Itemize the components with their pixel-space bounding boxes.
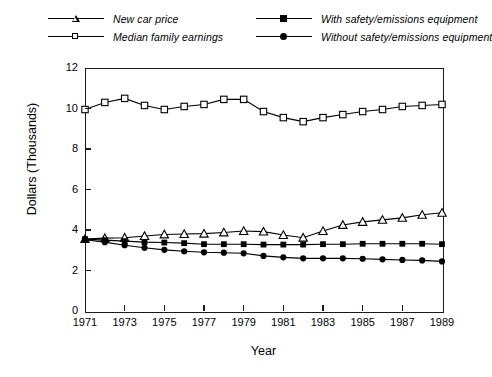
marker-square-open-icon xyxy=(439,101,445,107)
marker-square-filled-icon xyxy=(280,242,286,248)
x-tick-mark xyxy=(362,305,363,311)
y-tick-label: 12 xyxy=(56,62,78,73)
legend-label-with-safety-emissions-equipment: With safety/emissions equipment xyxy=(312,13,478,25)
x-tick-label: 1989 xyxy=(419,316,465,329)
x-axis-tick-labels: 1971197319751977197919811983198519871989 xyxy=(0,316,475,332)
marker-square-open-icon xyxy=(260,108,266,114)
x-tick-mark xyxy=(243,305,244,311)
marker-square-filled-icon xyxy=(419,241,425,247)
marker-square-open-icon xyxy=(181,103,187,109)
marker-circle-filled-icon xyxy=(360,256,366,262)
marker-circle-filled-icon xyxy=(399,257,405,263)
marker-square-filled-icon xyxy=(399,241,405,247)
marker-circle-filled-icon xyxy=(320,255,326,261)
x-tick-mark xyxy=(322,305,323,311)
marker-square-filled-icon xyxy=(181,240,187,246)
square-filled-icon xyxy=(280,15,287,22)
marker-circle-filled-icon xyxy=(379,256,385,262)
marker-circle-filled-icon xyxy=(340,255,346,261)
marker-circle-filled-icon xyxy=(122,242,128,248)
marker-square-filled-icon xyxy=(360,241,366,247)
series-median-family-earnings xyxy=(82,95,445,125)
marker-circle-filled-icon xyxy=(260,253,266,259)
marker-triangle-open-icon xyxy=(438,209,446,217)
y-tick-label: 6 xyxy=(56,184,78,195)
marker-square-open-icon xyxy=(399,103,405,109)
legend-label-without-safety-emissions-equipment: Without safety/emissions equipment xyxy=(312,31,492,43)
marker-square-filled-icon xyxy=(142,239,148,245)
marker-square-filled-icon xyxy=(161,240,167,246)
y-axis-title: Dollars (Thousands) xyxy=(25,79,39,239)
y-tick-label: 10 xyxy=(56,103,78,114)
series-without-safety-emissions-equipment xyxy=(82,237,445,265)
y-tick-mark xyxy=(85,189,91,190)
marker-square-open-icon xyxy=(359,108,365,114)
marker-square-filled-icon xyxy=(201,241,207,247)
x-tick-mark xyxy=(402,305,403,311)
legend-entry-without-safety-emissions-equipment: Without safety/emissions equipment xyxy=(256,28,492,46)
legend-label-new-car-price: New car price xyxy=(104,13,178,25)
marker-square-open-icon xyxy=(102,99,108,105)
marker-square-filled-icon xyxy=(300,242,306,248)
marker-circle-filled-icon xyxy=(201,249,207,255)
x-axis-title: Year xyxy=(85,344,442,358)
plot-series-layer xyxy=(85,68,442,311)
marker-square-open-icon xyxy=(141,102,147,108)
legend-swatch-with-safety-emissions-equipment xyxy=(256,12,312,26)
marker-square-open-icon xyxy=(320,114,326,120)
marker-square-open-icon xyxy=(340,111,346,117)
marker-circle-filled-icon xyxy=(280,254,286,260)
series-new-car-price xyxy=(81,209,446,243)
y-tick-mark xyxy=(85,108,91,109)
marker-square-open-icon xyxy=(280,114,286,120)
y-tick-label: 4 xyxy=(56,224,78,235)
marker-circle-filled-icon xyxy=(419,257,425,263)
y-tick-label: 2 xyxy=(56,265,78,276)
x-tick-mark xyxy=(203,305,204,311)
marker-circle-filled-icon xyxy=(439,258,445,264)
x-tick-mark xyxy=(164,305,165,311)
legend-swatch-without-safety-emissions-equipment xyxy=(256,30,312,44)
marker-circle-filled-icon xyxy=(300,255,306,261)
legend-entry-with-safety-emissions-equipment: With safety/emissions equipment xyxy=(256,10,478,28)
y-tick-mark xyxy=(85,229,91,230)
marker-square-open-icon xyxy=(121,95,127,101)
marker-square-open-icon xyxy=(300,118,306,124)
chart-legend: New car price Median family earnings Wit… xyxy=(48,10,468,52)
marker-square-open-icon xyxy=(379,106,385,112)
marker-square-open-icon xyxy=(161,106,167,112)
marker-square-filled-icon xyxy=(241,241,247,247)
marker-square-filled-icon xyxy=(221,241,227,247)
circle-filled-icon xyxy=(280,33,287,40)
marker-square-open-icon xyxy=(221,96,227,102)
marker-square-filled-icon xyxy=(261,242,267,248)
legend-label-median-family-earnings: Median family earnings xyxy=(104,31,223,43)
marker-circle-filled-icon xyxy=(221,250,227,256)
x-tick-mark xyxy=(283,305,284,311)
marker-square-open-icon xyxy=(240,96,246,102)
marker-circle-filled-icon xyxy=(181,248,187,254)
marker-square-open-icon xyxy=(419,102,425,108)
y-tick-mark xyxy=(85,148,91,149)
marker-square-open-icon xyxy=(201,101,207,107)
y-tick-label: 8 xyxy=(56,143,78,154)
marker-circle-filled-icon xyxy=(141,245,147,251)
marker-circle-filled-icon xyxy=(82,237,88,243)
marker-square-filled-icon xyxy=(320,241,326,247)
y-tick-label: 0 xyxy=(56,305,78,316)
marker-square-filled-icon xyxy=(439,241,445,247)
marker-square-filled-icon xyxy=(380,241,386,247)
marker-circle-filled-icon xyxy=(161,247,167,253)
series-with-safety-emissions-equipment xyxy=(82,236,445,247)
y-tick-mark xyxy=(85,270,91,271)
marker-circle-filled-icon xyxy=(102,239,108,245)
marker-square-filled-icon xyxy=(340,241,346,247)
marker-circle-filled-icon xyxy=(241,250,247,256)
x-tick-mark xyxy=(124,305,125,311)
